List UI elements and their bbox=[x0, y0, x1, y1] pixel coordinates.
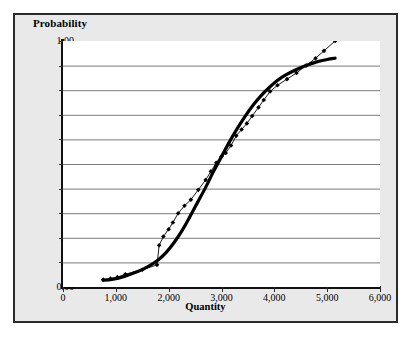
x-tick-mark bbox=[169, 287, 170, 292]
plot-area bbox=[63, 41, 380, 287]
x-tick-mark bbox=[116, 287, 117, 292]
x-axis-title: Quantity bbox=[15, 301, 396, 312]
x-tick-mark bbox=[380, 287, 381, 292]
series-line bbox=[103, 58, 335, 280]
data-point-marker bbox=[157, 243, 162, 248]
x-tick-mark bbox=[327, 287, 328, 292]
chart-frame: Probability 0.00.10.20.30.40.50.60.70.80… bbox=[13, 13, 398, 323]
data-point-marker bbox=[285, 77, 290, 82]
y-axis-title: Probability bbox=[33, 17, 87, 29]
x-tick-mark bbox=[274, 287, 275, 292]
series-fitted bbox=[103, 58, 335, 280]
x-tick-mark bbox=[63, 287, 64, 292]
data-point-marker bbox=[171, 220, 176, 225]
chart-figure: Probability 0.00.10.20.30.40.50.60.70.80… bbox=[0, 0, 415, 349]
data-series-layer bbox=[63, 41, 380, 287]
x-tick-mark bbox=[222, 287, 223, 292]
